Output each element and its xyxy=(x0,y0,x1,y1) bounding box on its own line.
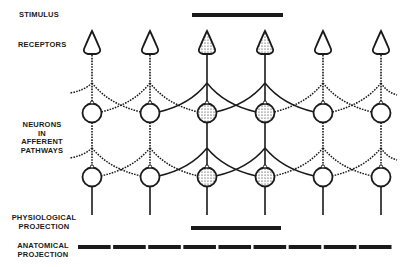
receptor-icon xyxy=(142,31,158,54)
anatomical-projection-segment xyxy=(324,245,357,249)
receptor-icon xyxy=(373,31,389,54)
receptor-stimulated-icon xyxy=(199,31,215,54)
neuron-active-icon xyxy=(198,104,217,123)
neuron-icon xyxy=(372,168,391,187)
neuron-icon xyxy=(141,168,160,187)
synapse-icon xyxy=(205,101,208,104)
synapse-icon xyxy=(263,165,266,168)
neuron-active-icon xyxy=(256,168,275,187)
receptor-icon xyxy=(84,31,100,54)
collateral-left xyxy=(70,148,92,158)
anatomical-projection-segment xyxy=(183,245,216,249)
synapse-icon xyxy=(379,101,382,104)
synapse-icon xyxy=(321,101,324,104)
synapse-icon xyxy=(263,101,266,104)
synapse-icon xyxy=(90,165,93,168)
neuron-icon xyxy=(314,168,333,187)
synapse-icon xyxy=(321,165,324,168)
anatomical-projection-segment xyxy=(148,245,181,249)
neuron-icon xyxy=(314,104,333,123)
anatomical-projection-segment xyxy=(113,245,146,249)
receptor-stimulated-icon xyxy=(257,31,273,54)
collateral-right xyxy=(381,148,397,160)
synapse-icon xyxy=(148,101,151,104)
neuron-active-icon xyxy=(256,104,275,123)
receptor-icon xyxy=(315,31,331,54)
anatomical-projection-segment xyxy=(78,245,111,249)
anatomical-projection-segment xyxy=(359,245,392,249)
stimulus-bar xyxy=(192,13,283,17)
synapse-icon xyxy=(205,165,208,168)
neuron-icon xyxy=(83,168,102,187)
synapse-icon xyxy=(379,165,382,168)
afferent-pathway-diagram xyxy=(0,0,404,267)
anatomical-projection-segment xyxy=(218,245,251,249)
anatomical-projection-segment xyxy=(289,245,322,249)
synapse-icon xyxy=(90,101,93,104)
collateral-right xyxy=(381,83,397,95)
neuron-icon xyxy=(83,104,102,123)
neuron-icon xyxy=(372,104,391,123)
synapse-icon xyxy=(148,165,151,168)
physiological-projection-bar xyxy=(191,226,281,230)
neuron-active-icon xyxy=(198,168,217,187)
collateral-left xyxy=(70,83,92,93)
anatomical-projection-segment xyxy=(254,245,287,249)
neuron-icon xyxy=(141,104,160,123)
